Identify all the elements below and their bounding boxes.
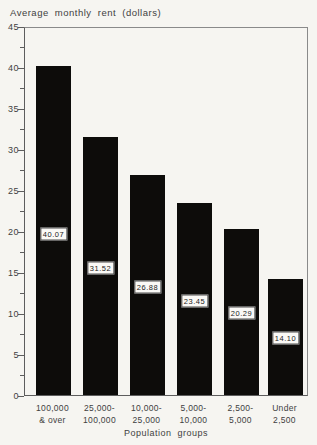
bar-value-label: 40.07 [40, 228, 67, 241]
bar-value-label: 26.88 [134, 281, 161, 294]
y-tick-label: 20 [0, 227, 19, 237]
y-tick-label: 45 [0, 22, 19, 32]
y-tick-label: 30 [0, 145, 19, 155]
bar-value-label: 20.29 [228, 307, 255, 320]
bar-value-label: 14.10 [272, 332, 299, 345]
plot-area: 40.0731.5226.8823.4520.2914.10 [24, 27, 308, 396]
bar: 26.88 [130, 175, 165, 395]
y-tick-label: 35 [0, 104, 19, 114]
bar-value-label: 31.52 [87, 262, 114, 275]
y-tick-label: 40 [0, 63, 19, 73]
bar: 31.52 [83, 137, 118, 395]
bar: 23.45 [177, 203, 212, 395]
bar: 40.07 [36, 66, 71, 395]
bar-value-label: 23.45 [181, 294, 208, 307]
x-category-label-line: Under [255, 403, 315, 415]
y-tick-label: 25 [0, 186, 19, 196]
bar: 20.29 [224, 229, 259, 395]
y-tick-label: 5 [0, 350, 19, 360]
x-category-label-line: 2,500 [255, 415, 315, 427]
y-tick-label: 15 [0, 268, 19, 278]
y-tick-label: 10 [0, 309, 19, 319]
x-category-label: Under2,500 [255, 403, 315, 426]
x-axis-title: Population groups [24, 428, 308, 438]
bar: 14.10 [268, 279, 303, 395]
bar-chart-figure: Average monthly rent (dollars) 051015202… [0, 0, 317, 445]
y-tick-label: 0 [0, 391, 19, 401]
chart-title: Average monthly rent (dollars) [10, 7, 161, 18]
